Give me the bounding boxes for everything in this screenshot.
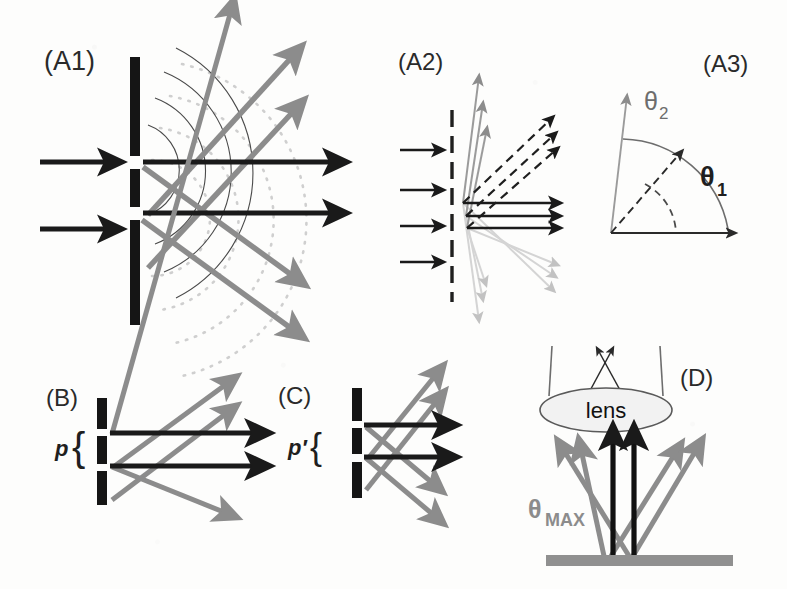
a3-inner-arc [645,184,676,232]
c-zero-order-rays [364,425,455,457]
d-gray-ray-right-outer [633,440,702,556]
panel-d-label: (D) [680,364,713,391]
d-gray-ray-left-inner [579,440,604,556]
a1-bar-bottom [130,220,140,325]
a1-slit-plate [130,57,140,325]
b-bar-middle [97,436,107,464]
panel-a2-label: (A2) [398,48,443,75]
panel-a3: (A3) θ 2 θ 1 [611,50,748,233]
a1-bar-middle [130,169,140,207]
panel-a2: (A2) [398,48,560,321]
a3-theta1-label: θ 1 [700,162,727,200]
wavefronts-dotted [152,64,306,376]
c-diffracted-ray-down-2 [366,458,443,523]
b-bar-top [97,398,107,429]
c-diffracted-ray-up-2 [366,392,444,490]
panel-c-brace: { [310,426,322,467]
panel-c-pitch-symbol: p′ [287,435,308,460]
a3-theta1-symbol: θ [700,162,715,192]
panel-a1: (A1) [40,46,345,376]
a1-diffracted-rays [142,47,304,337]
d-substrate-bar [546,555,733,566]
a2-incoming-rays [400,150,443,262]
c-bar-top [352,388,362,421]
d-theta-max-label: θ MAX [528,495,585,530]
d-gray-ray-right-inner [611,444,681,556]
panel-b-pitch-symbol: p [54,436,68,461]
d-barrel-left [549,346,552,396]
a2-faint-down-ray-6 [467,228,558,265]
c-slit-plate [352,388,362,498]
d-theta-max-subscript: MAX [545,510,585,530]
a2-faint-down-ray-1 [463,203,479,321]
a1-incoming-rays [40,162,120,229]
c-bar-bottom [352,462,362,498]
c-bar-middle [352,428,362,454]
c-diffracted-ray-up-1 [366,366,443,461]
panel-c: (C) p′ { [278,366,455,523]
a3-theta2-ray [611,96,627,233]
panel-d: (D) lens θ MAX [528,346,733,566]
panel-a3-label: (A3) [703,50,748,77]
a3-theta1-subscript: 1 [717,180,727,200]
a2-dashed-order-ray-1 [463,117,553,203]
c-diffracted-rays [366,366,444,523]
a2-faint-down-rays [463,203,558,321]
figure-canvas: (A1) [0,0,787,589]
panel-a1-label: (A1) [44,46,95,76]
a3-theta2-subscript: 2 [659,104,668,123]
d-gray-rays [558,440,702,556]
d-lens-label: lens [586,398,626,423]
b-slit-plate [97,398,107,505]
d-theta-max-symbol: θ [528,495,542,523]
panel-b-brace: { [72,425,85,469]
b-diffracted-ray-down-2 [112,467,236,517]
b-bar-bottom [97,471,107,505]
d-barrel-right [660,346,663,396]
a3-theta2-label: θ 2 [644,87,668,123]
a1-bar-top [130,57,140,156]
a3-theta2-symbol: θ [644,87,658,115]
a3-theta1-ray [611,151,682,233]
panel-b-label: (B) [46,384,78,411]
panel-c-label: (C) [278,382,311,409]
